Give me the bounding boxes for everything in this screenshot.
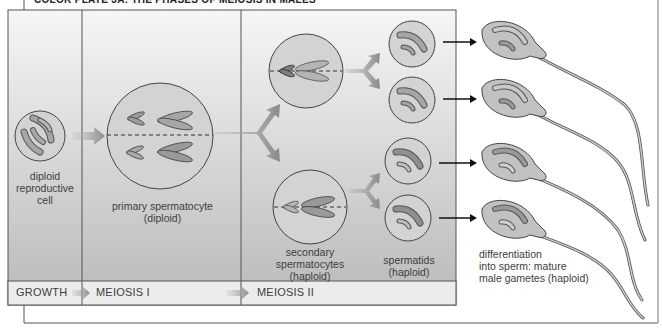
primary-spermatocyte <box>107 83 213 189</box>
spermatids-label: spermatids (haploid) <box>374 254 444 278</box>
sperm-1 <box>482 21 546 59</box>
label-line: cell <box>10 194 80 206</box>
label-line: secondary <box>265 246 355 258</box>
label-line: into sperm: mature <box>479 260 609 272</box>
label-line: (diploid) <box>90 212 235 224</box>
secondary-spermatocytes-label: secondary spermatocytes (haploid) <box>265 246 355 282</box>
label-line: (haploid) <box>374 266 444 278</box>
spermatid-2 <box>389 77 435 123</box>
label-line: diploid <box>10 170 80 182</box>
spermatid-1 <box>389 21 435 67</box>
secondary-spermatocyte-top <box>269 34 343 108</box>
stage-growth: GROWTH <box>16 286 67 298</box>
sperm-label: differentiation into sperm: mature male … <box>479 248 609 284</box>
label-line: reproductive <box>10 182 80 194</box>
label-line: differentiation <box>479 248 609 260</box>
label-line: primary spermatocyte <box>90 200 235 212</box>
label-line: spermatids <box>374 254 444 266</box>
spermatid-3 <box>385 138 431 184</box>
sperm-2 <box>482 79 546 117</box>
diploid-cell-label: diploid reproductive cell <box>10 170 80 206</box>
stage-meiosis-ii: MEIOSIS II <box>257 286 314 298</box>
secondary-spermatocyte-bottom <box>273 170 347 244</box>
sperm-4 <box>482 200 546 238</box>
primary-spermatocyte-label: primary spermatocyte (diploid) <box>90 200 235 224</box>
label-line: male gametes (haploid) <box>479 272 609 284</box>
label-line: (haploid) <box>265 270 355 282</box>
diploid-cell <box>15 111 65 161</box>
sperm-3 <box>482 143 546 181</box>
spermatid-4 <box>385 195 431 241</box>
stage-meiosis-i: MEIOSIS I <box>96 286 150 298</box>
label-line: spermatocytes <box>265 258 355 270</box>
